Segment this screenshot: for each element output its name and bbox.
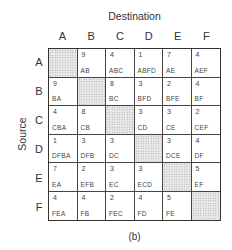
route-path: BA <box>52 95 61 102</box>
route-cell: 4FD <box>135 192 164 221</box>
route-cell: 4ABC <box>106 49 135 78</box>
route-path: BFD <box>138 95 152 102</box>
route-path: AE <box>166 67 175 74</box>
route-cost: 2 <box>167 80 171 87</box>
routing-table-grid: 9AB4ABC1ABFD7AE4AEF9BA8BC3BFD2BFE4BF4CBA… <box>48 48 221 221</box>
route-path: DC <box>109 152 119 159</box>
route-cell: 1ABFD <box>135 49 164 78</box>
route-path: FB <box>81 210 90 217</box>
route-cost: 3 <box>139 80 143 87</box>
route-cost: 7 <box>167 51 171 58</box>
route-cost: 4 <box>196 51 200 58</box>
route-cost: 3 <box>110 137 114 144</box>
route-cell: 5EF <box>192 163 221 192</box>
route-path: ECD <box>138 181 153 188</box>
destination-axis-title: Destination <box>48 10 221 22</box>
route-cost: 2 <box>196 108 200 115</box>
route-cost: 5 <box>196 165 200 172</box>
route-cost: 4 <box>53 108 57 115</box>
row-header-f: F <box>33 201 45 213</box>
route-path: DFBA <box>52 152 71 159</box>
route-path: FEC <box>109 210 123 217</box>
route-cost: 3 <box>139 108 143 115</box>
route-path: EF <box>195 181 204 188</box>
route-cell: 2FEC <box>106 192 135 221</box>
route-cell: 4FB <box>78 192 107 221</box>
route-cost: 4 <box>196 80 200 87</box>
route-cost: 3 <box>167 108 171 115</box>
route-cost: 1 <box>139 51 143 58</box>
route-path: AEF <box>195 67 209 74</box>
route-path: BF <box>195 95 204 102</box>
route-path: FEA <box>52 210 66 217</box>
route-cell: 5FE <box>163 192 192 221</box>
route-cost: 8 <box>82 108 86 115</box>
route-cost: 3 <box>167 137 171 144</box>
route-cost: 7 <box>53 165 57 172</box>
column-header-f: F <box>192 30 221 42</box>
column-header-b: B <box>77 30 106 42</box>
route-cell: 2CEF <box>192 106 221 135</box>
route-path: CB <box>81 124 91 131</box>
route-cell: 8CB <box>78 106 107 135</box>
route-cell: 7AE <box>163 49 192 78</box>
route-cell: 4CBA <box>49 106 78 135</box>
route-cell: 3ECD <box>135 163 164 192</box>
column-header-d: D <box>134 30 163 42</box>
route-cost: 5 <box>167 194 171 201</box>
column-header-c: C <box>106 30 135 42</box>
route-cell: 9BA <box>49 78 78 107</box>
diagonal-cell <box>163 163 192 192</box>
route-cell: 3DFB <box>78 135 107 164</box>
route-cell: 4AEF <box>192 49 221 78</box>
route-cost: 4 <box>139 194 143 201</box>
route-path: FD <box>138 210 147 217</box>
diagonal-cell <box>78 78 107 107</box>
route-cell: 3DCE <box>163 135 192 164</box>
diagonal-cell <box>49 49 78 78</box>
column-header-a: A <box>48 30 77 42</box>
route-cell: 2BFE <box>163 78 192 107</box>
route-cost: 4 <box>82 194 86 201</box>
route-cell: 1DFBA <box>49 135 78 164</box>
route-cost: 4 <box>196 137 200 144</box>
route-path: DFB <box>81 152 95 159</box>
route-cell: 3BFD <box>135 78 164 107</box>
route-cell: 9AB <box>78 49 107 78</box>
row-header-d: D <box>33 143 45 155</box>
route-path: BFE <box>166 95 180 102</box>
route-path: EFB <box>81 181 95 188</box>
route-path: FE <box>166 210 175 217</box>
route-path: CEF <box>195 124 209 131</box>
diagonal-cell <box>106 106 135 135</box>
route-path: BC <box>109 95 119 102</box>
route-path: CD <box>138 124 148 131</box>
route-cell: 2EFB <box>78 163 107 192</box>
route-cost: 2 <box>110 194 114 201</box>
source-axis-title: Source <box>16 112 28 156</box>
diagonal-cell <box>135 135 164 164</box>
route-cost: 9 <box>53 80 57 87</box>
route-path: EA <box>52 181 61 188</box>
route-path: ABC <box>109 67 123 74</box>
route-path: CE <box>166 124 176 131</box>
route-path: DF <box>195 152 204 159</box>
row-header-e: E <box>33 172 45 184</box>
route-cost: 2 <box>82 165 86 172</box>
route-cost: 3 <box>82 137 86 144</box>
route-cell: 4FEA <box>49 192 78 221</box>
route-cell: 3CD <box>135 106 164 135</box>
route-cost: 3 <box>110 165 114 172</box>
route-cell: 8BC <box>106 78 135 107</box>
route-cost: 8 <box>110 80 114 87</box>
route-cell: 3DC <box>106 135 135 164</box>
route-cost: 4 <box>110 51 114 58</box>
route-cell: 4DF <box>192 135 221 164</box>
route-cost: 3 <box>139 165 143 172</box>
route-cell: 7EA <box>49 163 78 192</box>
route-path: EC <box>109 181 119 188</box>
row-header-a: A <box>33 56 45 68</box>
row-header-c: C <box>33 114 45 126</box>
route-cost: 1 <box>53 137 57 144</box>
route-path: ABFD <box>138 67 157 74</box>
